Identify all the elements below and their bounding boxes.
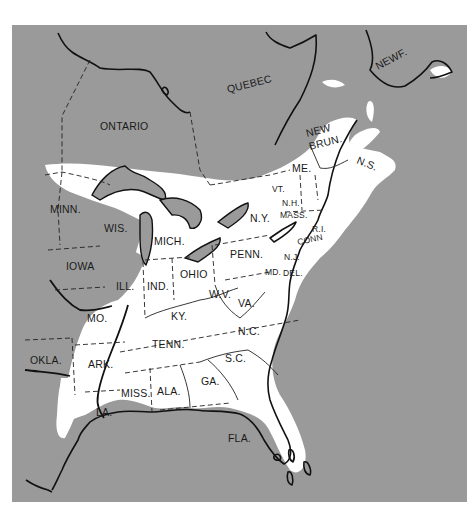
range-pei [366,101,373,122]
label-vt: VT. [272,184,285,194]
label-md: MD. [265,267,281,277]
label-ill: ILL. [116,280,134,292]
label-miss: MISS. [121,387,151,399]
label-minn: MINN. [50,203,81,215]
label-ala: ALA. [157,385,181,397]
bahamas-4 [287,472,293,485]
label-fla: FLA. [228,432,251,444]
label-iowa: IOWA [66,260,94,272]
label-la: LA. [96,406,112,418]
label-ark: ARK. [88,358,113,370]
label-quebec: QUEBEC [226,72,273,95]
ontario-manitoba-border [62,60,90,172]
range-island [322,80,345,88]
label-ky: KY. [171,310,187,322]
james-bay-islands [162,87,168,95]
label-del: DEL. [283,268,303,278]
label-nj: N.J. [284,252,300,262]
label-ontario: ONTARIO [100,120,148,132]
label-penn: PENN. [230,248,263,260]
label-ga: GA. [201,375,220,387]
label-sc: S.C. [225,352,246,364]
label-okla: OKLA. [30,354,62,366]
label-mich: MICH. [154,235,185,247]
bahamas-3 [304,462,311,475]
texas-tip [26,480,52,492]
label-ind: IND. [147,280,169,292]
label-newfoundland: NEWF. [373,45,408,71]
label-mass: MASS. [280,210,307,220]
label-nc: N.C. [238,325,260,337]
label-me: ME. [292,162,311,174]
label-ohio: OHIO [180,268,208,280]
label-wv: W.V. [209,288,231,300]
range-map: ONTARIO QUEBEC NEW BRUN. N.S. NEWF. MINN… [0,0,474,515]
label-wis: WIS. [104,222,128,234]
label-tenn: TENN. [152,338,185,350]
ontario-quebec-border [190,112,210,185]
label-va: VA. [238,297,255,309]
label-ny: N.Y. [250,212,270,224]
northern-coast [58,33,190,113]
label-mo: MO. [87,312,107,324]
gulf-coast [52,409,240,490]
label-nh: N.H. [282,198,300,208]
